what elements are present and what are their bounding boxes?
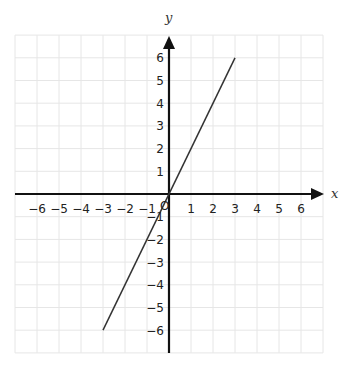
y-tick-label: −4 [146,278,164,292]
x-tick-label: 2 [209,202,217,216]
coordinate-plane: −6−5−4−3−2−1123456−6−5−4−3−2−1123456 x y… [0,0,348,378]
x-tick-label: −5 [50,202,68,216]
y-tick-label: −3 [146,256,164,270]
y-tick-label: 1 [156,165,164,179]
x-tick-label: −2 [116,202,134,216]
y-tick-label: 2 [156,142,164,156]
x-tick-label: −4 [72,202,90,216]
x-tick-label: 5 [275,202,283,216]
y-tick-label: 4 [156,97,164,111]
y-axis-label: y [164,10,173,25]
x-axis-label: x [331,186,339,201]
y-tick-label: −2 [146,233,164,247]
y-tick-label: 6 [156,51,164,65]
x-tick-label: 1 [187,202,195,216]
y-tick-label: −6 [146,324,164,338]
y-tick-label: 5 [156,74,164,88]
x-tick-label: 6 [297,202,305,216]
y-tick-label: −5 [146,301,164,315]
origin-label: O [160,199,169,213]
x-tick-label: −3 [94,202,112,216]
x-tick-label: 4 [253,202,261,216]
x-axis-arrow-icon [311,188,324,200]
y-tick-label: 3 [156,119,164,133]
x-tick-label: 3 [231,202,239,216]
x-tick-label: −6 [28,202,46,216]
y-axis-arrow-icon [163,36,175,49]
